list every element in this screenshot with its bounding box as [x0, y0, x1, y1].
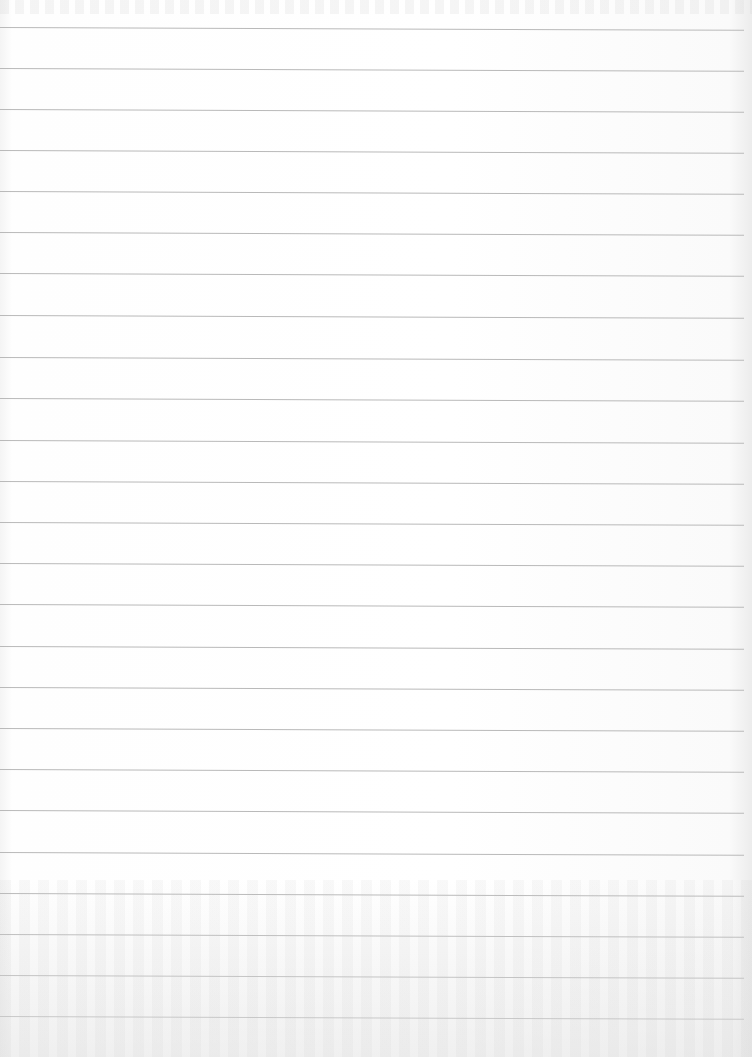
ruled-line [0, 357, 744, 361]
ruled-line [0, 522, 744, 526]
ruled-line [0, 109, 744, 113]
show-through-texture-top [0, 0, 752, 14]
ruled-line [0, 315, 744, 319]
ruled-line [0, 398, 744, 402]
ruled-line [0, 810, 744, 814]
ruled-line [0, 191, 744, 195]
show-through-texture-bottom [0, 880, 752, 1057]
ruled-line [0, 440, 744, 444]
ruled-line [0, 893, 744, 897]
ruled-line [0, 934, 744, 938]
ruled-line [0, 1016, 744, 1020]
ruled-line [0, 646, 744, 650]
ruled-line [0, 150, 744, 154]
ruled-line [0, 68, 744, 72]
ruled-line [0, 728, 744, 732]
ruled-line [0, 232, 744, 236]
ruled-line [0, 481, 744, 485]
ruled-line [0, 27, 744, 31]
ruled-line [0, 604, 744, 608]
ruled-line [0, 852, 744, 856]
lined-paper-sheet [0, 0, 752, 1057]
ruled-line [0, 687, 744, 691]
ruled-line [0, 975, 744, 979]
ruled-line [0, 273, 744, 277]
ruled-line [0, 563, 744, 567]
ruled-line [0, 769, 744, 773]
